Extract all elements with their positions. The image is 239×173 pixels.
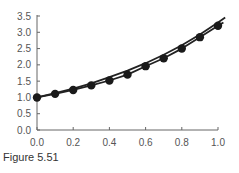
y-tick-label: 3.5 <box>17 11 31 22</box>
series-line-1 <box>37 18 225 98</box>
x-tick-label: 0.4 <box>102 137 116 148</box>
data-point <box>33 93 41 101</box>
y-tick-label: 3.0 <box>17 27 31 38</box>
data-point <box>160 54 168 62</box>
x-tick-label: 0.2 <box>66 137 80 148</box>
y-tick-label: 2.0 <box>17 59 31 70</box>
data-point <box>214 22 222 30</box>
y-tick-label: 0.5 <box>17 108 31 119</box>
figure-caption: Figure 5.51 <box>3 151 59 163</box>
chart: 0.00.51.01.52.02.53.03.50.00.20.40.60.81… <box>0 0 239 150</box>
data-point <box>196 33 204 41</box>
data-point <box>51 90 59 98</box>
data-point <box>141 62 149 70</box>
y-tick-label: 2.5 <box>17 43 31 54</box>
data-point <box>123 70 131 78</box>
axes: 0.00.51.01.52.02.53.03.50.00.20.40.60.81… <box>17 11 225 149</box>
y-tick-label: 1.5 <box>17 76 31 87</box>
x-tick-label: 1.0 <box>211 137 225 148</box>
data-point <box>69 86 77 94</box>
data-point <box>105 76 113 84</box>
data-point <box>178 44 186 52</box>
y-tick-label: 1.0 <box>17 92 31 103</box>
data-point <box>87 81 95 89</box>
y-tick-label: 0.0 <box>17 125 31 136</box>
series-line-2 <box>37 23 223 98</box>
series-layer <box>33 18 225 102</box>
x-tick-label: 0.6 <box>139 137 153 148</box>
x-tick-label: 0.8 <box>175 137 189 148</box>
x-tick-label: 0.0 <box>30 137 44 148</box>
